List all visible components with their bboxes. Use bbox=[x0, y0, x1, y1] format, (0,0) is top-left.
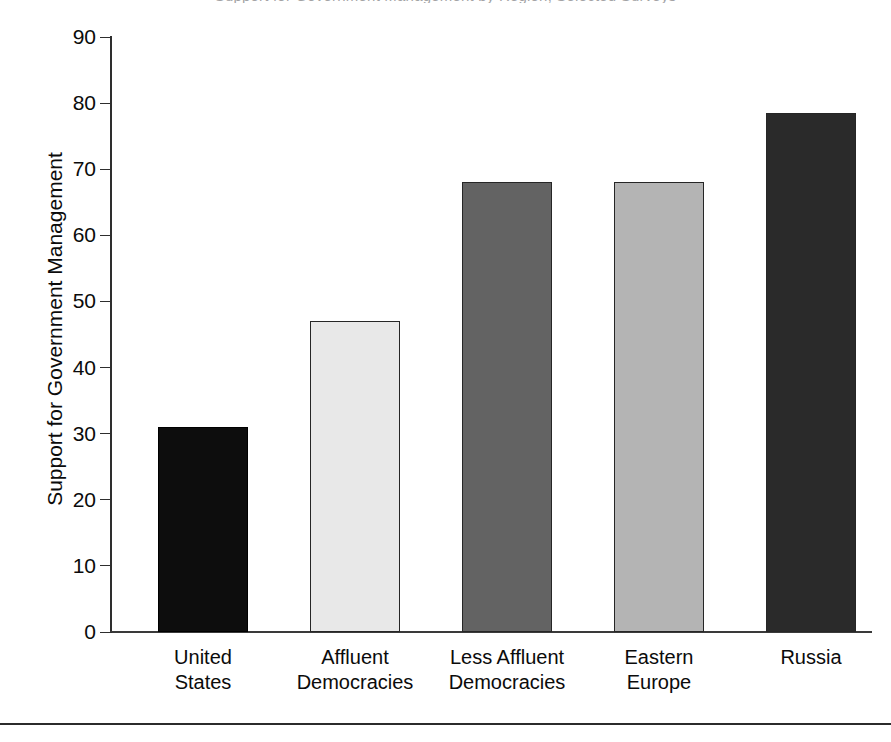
plot-area bbox=[110, 37, 872, 632]
y-axis-label-50: 50 bbox=[4, 290, 96, 311]
y-axis-label-40: 40 bbox=[4, 357, 96, 378]
x-axis-label-5-line-1: Russia bbox=[711, 645, 891, 670]
bar-4 bbox=[614, 182, 704, 632]
bar-1 bbox=[158, 427, 248, 632]
y-axis-label-70: 70 bbox=[4, 158, 96, 179]
bar-3 bbox=[462, 182, 552, 632]
x-axis-label-4-line-2: Europe bbox=[559, 670, 759, 695]
bar-5 bbox=[766, 113, 856, 632]
y-axis-title: Support for Government Management bbox=[44, 49, 66, 609]
y-axis-label-30: 30 bbox=[4, 423, 96, 444]
bar-2 bbox=[310, 321, 400, 632]
bar-chart-figure: Support for Government Management 908070… bbox=[0, 0, 891, 742]
y-axis-label-20: 20 bbox=[4, 489, 96, 510]
y-axis-label-10: 10 bbox=[4, 555, 96, 576]
x-axis-label-5: Russia bbox=[711, 645, 891, 670]
y-axis-label-60: 60 bbox=[4, 224, 96, 245]
bottom-divider-rule bbox=[0, 723, 891, 725]
y-axis-label-90: 90 bbox=[4, 26, 96, 47]
y-axis-label-0: 0 bbox=[4, 621, 96, 642]
y-axis-label-80: 80 bbox=[4, 92, 96, 113]
